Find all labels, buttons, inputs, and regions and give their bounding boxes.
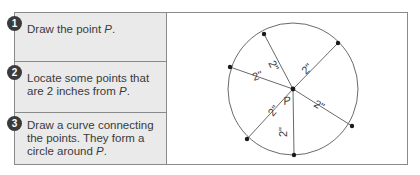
step-number-badge: 3 bbox=[7, 116, 22, 131]
circle-construction-figure: P 2" 2" 2" 2" 2" 2" bbox=[167, 13, 409, 166]
radius-label: 2" bbox=[266, 58, 281, 73]
step-1: 1 Draw the point P. bbox=[15, 13, 166, 62]
point-variable: P bbox=[96, 145, 104, 157]
steps-table: 1 Draw the point P. 2 Locate some points… bbox=[14, 12, 408, 165]
step-number-badge: 1 bbox=[7, 16, 22, 31]
circle-diagram: P 2" 2" 2" 2" 2" 2" bbox=[167, 13, 407, 164]
radius-label: 2" bbox=[312, 97, 327, 112]
radius-label: 2" bbox=[251, 68, 265, 83]
radius-label: 2" bbox=[277, 127, 289, 137]
steps-column: 1 Draw the point P. 2 Locate some points… bbox=[15, 13, 167, 164]
radius-label: 2" bbox=[299, 61, 315, 77]
radius-lines bbox=[230, 34, 352, 155]
center-point-P bbox=[291, 87, 296, 92]
step-3: 3 Draw a curve connecting the points. Th… bbox=[15, 113, 166, 164]
step-text: Draw a curve connecting the points. They… bbox=[27, 119, 154, 157]
circle-points bbox=[228, 32, 354, 157]
point-variable: P bbox=[104, 23, 112, 35]
step-number-badge: 2 bbox=[7, 65, 22, 80]
step-text: Draw the point bbox=[27, 23, 104, 35]
point-variable: P bbox=[119, 85, 127, 97]
step-2: 2 Locate some points that are 2 inches f… bbox=[15, 62, 166, 113]
center-label: P bbox=[282, 94, 292, 107]
step-text: Locate some points that are 2 inches fro… bbox=[27, 72, 149, 97]
